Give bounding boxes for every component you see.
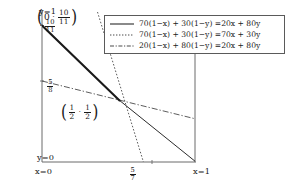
annotation-intersection-half-half: ( 1 2 · 1 2 ) bbox=[61, 104, 99, 120]
axis-label-y-min: y=0 bbox=[37, 152, 54, 162]
intersection-x-denominator: 2 bbox=[69, 112, 76, 120]
legend2-term-x: (1−x) bbox=[149, 41, 170, 50]
annotation-y-denominator: 11 bbox=[58, 17, 69, 25]
tick-5-8-denominator: 8 bbox=[47, 86, 53, 94]
legend1-term-x: (1−x) bbox=[149, 30, 170, 39]
axis-label-x-max: x=1 bbox=[193, 166, 210, 176]
legend0-coef-b: + 30 bbox=[173, 19, 191, 28]
intersection-x-numerator: 1 bbox=[69, 104, 76, 111]
figure-root: y=1 10 11 5 8 y=0 x=0 x=1 5 7 ( 0 · bbox=[0, 0, 288, 191]
legend0-term-y: (1−y) bbox=[191, 19, 212, 28]
legend0-rhs: =20x + 80y bbox=[215, 19, 260, 28]
intersection-separator: · bbox=[77, 107, 83, 116]
axis-label-x-min: x=0 bbox=[35, 166, 52, 176]
annotation-point-0-10-11: ( 0 · 10 11 ) bbox=[37, 9, 77, 25]
annotation-separator: · bbox=[51, 12, 57, 21]
legend1-term-y: (1−y) bbox=[191, 30, 212, 39]
legend-key-dashdot-line-icon bbox=[109, 41, 135, 51]
legend2-rhs: =20x + 80y bbox=[215, 41, 260, 50]
tick-10-11-denominator: 11 bbox=[45, 26, 55, 34]
intersection-y-numerator: 1 bbox=[84, 104, 91, 111]
legend2-term-y: (1−y) bbox=[191, 41, 212, 50]
legend0-coef-a: 70 bbox=[139, 19, 149, 28]
legend2-coef-b: + 80 bbox=[173, 41, 191, 50]
legend1-coef-b: + 30 bbox=[173, 30, 191, 39]
annotation-close-paren: ) bbox=[71, 8, 77, 26]
legend-label-dotted: 70(1−x) + 30(1−y) =70x + 30y bbox=[139, 30, 260, 39]
legend2-coef-a: 20 bbox=[139, 41, 149, 50]
legend-label-solid: 70(1−x) + 30(1−y) =20x + 80y bbox=[139, 19, 260, 28]
intersection-close-paren: ) bbox=[93, 103, 99, 121]
legend-entry-solid: 70(1−x) + 30(1−y) =20x + 80y bbox=[109, 18, 281, 29]
annotation-y-numerator: 10 bbox=[58, 9, 69, 16]
legend-box: 70(1−x) + 30(1−y) =20x + 80y 70(1−x) + 3… bbox=[104, 15, 285, 54]
tick-5-7-numerator: 5 bbox=[130, 167, 136, 174]
annotation-open-paren: ( bbox=[37, 8, 43, 26]
legend-entry-dashdot: 20(1−x) + 80(1−y) =20x + 80y bbox=[109, 40, 281, 51]
intersection-y-denominator: 2 bbox=[84, 112, 91, 120]
annotation-x-value: 0 bbox=[44, 12, 50, 22]
legend1-rhs: =70x + 30y bbox=[215, 30, 260, 39]
tick-5-7-denominator: 7 bbox=[130, 174, 136, 182]
legend-entry-dotted: 70(1−x) + 30(1−y) =70x + 30y bbox=[109, 29, 281, 40]
legend-key-dotted-line-icon bbox=[109, 30, 135, 40]
intersection-open-paren: ( bbox=[61, 103, 67, 121]
tick-5-8-numerator: 5 bbox=[47, 79, 53, 86]
legend0-term-x: (1−x) bbox=[149, 19, 170, 28]
legend-key-solid-line-icon bbox=[109, 19, 135, 29]
axis-tick-label-5-8: 5 8 bbox=[47, 72, 54, 94]
legend1-coef-a: 70 bbox=[139, 30, 149, 39]
legend-label-dashdot: 20(1−x) + 80(1−y) =20x + 80y bbox=[139, 41, 260, 50]
axis-tick-label-5-7: 5 7 bbox=[129, 160, 136, 182]
